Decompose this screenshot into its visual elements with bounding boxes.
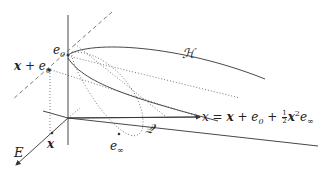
point-e-inf	[118, 133, 121, 136]
label-formula-x: x = x + e0 + 12x2e∞	[202, 110, 314, 126]
label-E: E	[14, 146, 24, 159]
point-e0	[67, 54, 70, 57]
label-x-bold: x	[47, 138, 54, 150]
horosphere-curve-lower	[68, 58, 218, 121]
point-x	[51, 132, 54, 135]
label-e-inf: e∞	[110, 140, 124, 155]
label-Q: 𝒬	[145, 122, 154, 135]
plane-line-left	[43, 111, 68, 118]
dotted-base	[68, 108, 80, 118]
label-x-plus-e0: x + e0	[14, 60, 51, 75]
Q-ellipse	[72, 52, 143, 136]
label-horosphere-H: ℋ	[182, 47, 195, 60]
arrow-to-point-x	[68, 117, 200, 118]
label-e0: e0	[53, 44, 65, 59]
cga-diagram: e0 x + e0 ℋ x = x + e0 + 12x2e∞ 𝒬 x e∞ E	[0, 0, 320, 175]
dotted-diagonal	[75, 44, 165, 116]
